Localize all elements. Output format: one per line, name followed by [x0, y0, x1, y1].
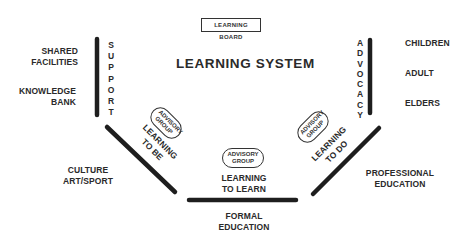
advocacy-vertical-label: A D V O C A C Y	[355, 38, 365, 120]
shared-facilities-label: SHARED FACILITIES	[20, 46, 78, 68]
formal-education-label: FORMAL EDUCATION	[212, 211, 276, 233]
learning-to-learn-label: LEARNING TO LEARN	[212, 173, 276, 195]
adult-label: ADULT	[405, 68, 434, 79]
professional-education-label: PROFESSIONAL EDUCATION	[362, 168, 438, 190]
learning-board-label: LEARNING BOARD	[214, 22, 248, 40]
knowledge-bank-label: KNOWLEDGE BANK	[10, 86, 76, 108]
support-vertical-label: S U P P O R T	[106, 40, 116, 118]
culture-art-sport-label: CULTURE ART/SPORT	[56, 165, 120, 187]
page-title: LEARNING SYSTEM	[176, 56, 315, 71]
advisory-group-learn: ADVISORY GROUP	[222, 148, 264, 168]
elders-label: ELDERS	[405, 98, 440, 109]
children-label: CHILDREN	[405, 38, 450, 49]
learning-board-box: LEARNING BOARD	[201, 18, 261, 32]
